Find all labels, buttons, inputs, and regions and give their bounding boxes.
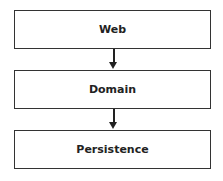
arrow-line-web-domain <box>113 49 115 62</box>
layer-persistence: Persistence <box>14 130 211 169</box>
layer-label: Web <box>99 23 126 36</box>
arrow-head-icon <box>109 62 117 69</box>
arrow-head-icon <box>109 122 117 129</box>
layer-domain: Domain <box>14 70 211 109</box>
layer-web: Web <box>14 10 211 49</box>
arrow-line-domain-persistence <box>113 109 115 122</box>
layer-label: Persistence <box>76 143 148 156</box>
layer-label: Domain <box>89 83 136 96</box>
